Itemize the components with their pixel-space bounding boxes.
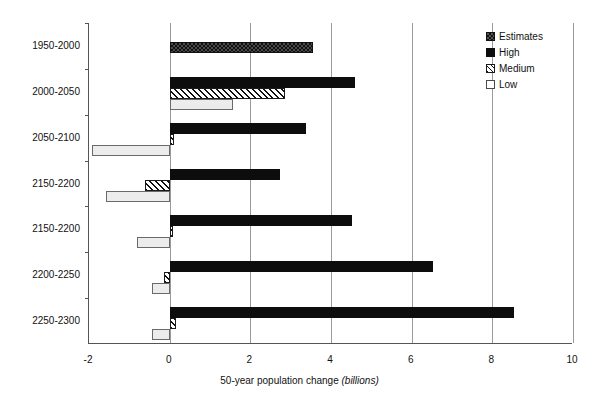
legend-label-estimates: Estimates (499, 31, 543, 42)
y-axis-label-3: 2150-2200 (0, 178, 80, 189)
gridline-x-6 (412, 23, 413, 343)
bar-low-2150-2200 (137, 237, 169, 248)
legend-label-low: Low (499, 79, 517, 90)
y-axis-tick (85, 252, 89, 253)
bar-medium-2200-2250 (164, 272, 170, 283)
legend-swatch-estimates-icon (486, 32, 495, 41)
y-axis-label-0: 1950-2000 (0, 40, 80, 51)
y-axis-tick (85, 69, 89, 70)
bar-low-2050-2100 (92, 145, 169, 156)
legend-item-medium: Medium (486, 60, 570, 76)
chart-legend: EstimatesHighMediumLow (486, 28, 570, 92)
bar-medium-2150-2200 (170, 226, 173, 237)
x-tick-label-10: 10 (552, 354, 592, 365)
x-axis-title-main: 50-year population change (220, 375, 341, 386)
x-tick-label-2: 2 (229, 354, 269, 365)
y-axis-label-4: 2150-2200 (0, 223, 80, 234)
gridline-x-4 (331, 23, 332, 343)
y-axis-tick (85, 115, 89, 116)
gridline-x-2 (250, 23, 251, 343)
legend-swatch-low-icon (486, 80, 495, 89)
y-axis-label-5: 2200-2250 (0, 269, 80, 280)
legend-swatch-high-icon (486, 48, 495, 57)
x-axis-title: 50-year population change (billions) (0, 375, 599, 386)
bar-medium-2150-2200 (145, 180, 170, 191)
legend-label-high: High (499, 47, 520, 58)
gridline-x-0 (170, 23, 171, 343)
bar-estimates-1950-2000 (170, 42, 313, 53)
gridline-x-10 (573, 23, 574, 343)
x-axis-title-unit: (billions) (341, 375, 378, 386)
bar-high-2150-2200 (170, 215, 353, 226)
x-tick-label-8: 8 (471, 354, 511, 365)
bar-low-2000-2050 (170, 99, 233, 110)
y-axis-tick (85, 298, 89, 299)
bar-high-2050-2100 (170, 123, 306, 134)
y-axis-label-1: 2000-2050 (0, 86, 80, 97)
x-tick-label-4: 4 (310, 354, 350, 365)
y-axis-tick (85, 23, 89, 24)
bar-medium-2050-2100 (170, 134, 175, 145)
bar-low-2150-2200 (106, 191, 169, 202)
y-axis-label-2: 2050-2100 (0, 132, 80, 143)
bar-high-2200-2250 (170, 261, 434, 272)
population-change-bar-chart: 1950-20002000-20502050-21002150-22002150… (0, 0, 599, 405)
bar-high-2150-2200 (170, 169, 281, 180)
bar-low-2250-2300 (152, 329, 170, 340)
legend-label-medium: Medium (499, 63, 535, 74)
bar-high-2000-2050 (170, 77, 356, 88)
legend-item-estimates: Estimates (486, 28, 570, 44)
x-tick-label-0: 0 (149, 354, 189, 365)
legend-item-low: Low (486, 76, 570, 92)
y-axis-tick (85, 206, 89, 207)
legend-item-high: High (486, 44, 570, 60)
y-axis-label-6: 2250-2300 (0, 315, 80, 326)
bar-high-2250-2300 (170, 307, 514, 318)
bar-medium-2250-2300 (170, 318, 176, 329)
bar-low-2200-2250 (152, 283, 170, 294)
x-tick-label-6: 6 (391, 354, 431, 365)
legend-swatch-medium-icon (486, 64, 495, 73)
y-axis-tick (85, 161, 89, 162)
x-tick-label--2: -2 (68, 354, 108, 365)
bar-medium-2000-2050 (170, 88, 285, 99)
